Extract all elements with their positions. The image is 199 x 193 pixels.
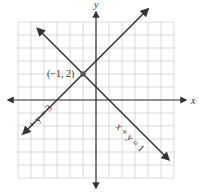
- point-label: (−1, 2): [47, 68, 74, 80]
- axes: [8, 12, 186, 188]
- chart: x y (−1, 2) −x + y = 3 x + y = 1: [0, 0, 199, 193]
- x-axis-label: x: [190, 95, 196, 106]
- line-label-1: −x + y = 3: [17, 102, 54, 139]
- points: [81, 72, 86, 77]
- y-axis-label: y: [93, 0, 99, 10]
- intersection-point: [81, 72, 86, 77]
